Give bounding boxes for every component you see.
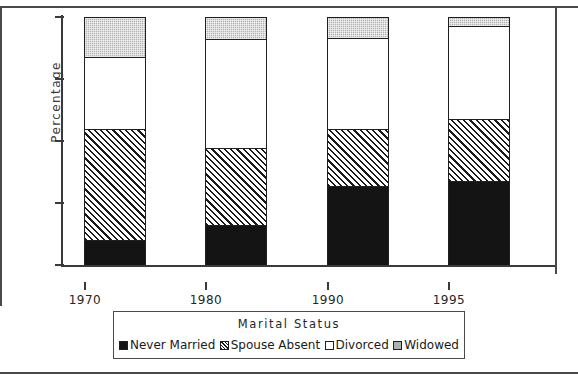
bar-1970[interactable] [84,17,146,265]
legend-item-spouse-absent[interactable]: Spouse Absent [220,338,320,352]
bar-1995-widowed[interactable] [449,17,509,26]
bar-1990-never-married[interactable] [328,186,388,265]
frame-left-rule [0,6,2,306]
y-tick-100 [55,16,64,18]
solid-black-swatch-icon [119,341,128,350]
legend: Marital Status Never Married Spouse Abse… [113,311,465,359]
bar-1970-never-married[interactable] [85,240,145,265]
x-tick-label-1980: 1980 [166,293,246,307]
plot-area: Percentage 100 75 50 25 0 1970 1980 1990… [62,17,553,265]
x-tick-label-1970: 1970 [45,293,125,307]
bar-1980-widowed[interactable] [206,17,266,39]
bar-1995[interactable] [448,17,510,265]
x-tick-label-1990: 1990 [288,293,368,307]
y-tick-50 [55,140,64,142]
legend-title: Marital Status [114,317,464,331]
legend-item-widowed[interactable]: Widowed [393,338,459,352]
legend-items: Never Married Spouse Absent Divorced Wid… [119,338,459,352]
legend-label-never-married: Never Married [130,338,215,352]
x-tick-label-1995: 1995 [409,293,489,307]
frame-right-rule [555,6,557,274]
bar-1980-divorced[interactable] [206,39,266,148]
legend-label-spouse-absent: Spouse Absent [231,338,320,352]
bar-1990[interactable] [327,17,389,265]
bar-1990-widowed[interactable] [328,17,388,38]
bar-1970-widowed[interactable] [85,17,145,57]
y-tick-0 [55,264,64,266]
x-tick-1970 [84,282,86,290]
bar-1990-divorced[interactable] [328,38,388,129]
legend-item-never-married[interactable]: Never Married [119,338,215,352]
x-tick-1990 [327,282,329,290]
x-tick-1995 [448,282,450,290]
legend-label-divorced: Divorced [336,338,389,352]
bar-1995-never-married[interactable] [449,181,509,265]
y-tick-75 [55,78,64,80]
y-axis-title: Percentage [49,61,63,143]
legend-label-widowed: Widowed [404,338,459,352]
bar-1970-spouse-absent[interactable] [85,129,145,241]
bar-1980-never-married[interactable] [206,225,266,265]
x-tick-1980 [205,282,207,290]
y-tick-25 [55,202,64,204]
legend-item-divorced[interactable]: Divorced [325,338,389,352]
bar-1995-divorced[interactable] [449,26,509,119]
x-axis-line [61,265,555,267]
bar-1980[interactable] [205,17,267,265]
frame-bottom-rule [0,372,578,374]
hatch-swatch-icon [220,341,229,350]
frame-top-rule [0,6,578,8]
chart-figure: Percentage 100 75 50 25 0 1970 1980 1990… [0,0,578,385]
bar-1995-spouse-absent[interactable] [449,119,509,181]
white-swatch-icon [325,341,334,350]
bar-1970-divorced[interactable] [85,57,145,129]
bar-1980-spouse-absent[interactable] [206,148,266,225]
bar-1990-spouse-absent[interactable] [328,129,388,186]
gray-swatch-icon [393,341,402,350]
